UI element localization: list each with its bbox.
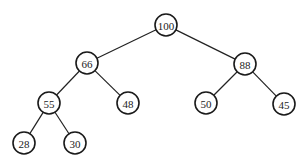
- edge-66-55: [57, 71, 80, 95]
- nodes-layer: 1006688554850452830: [13, 14, 295, 154]
- tree-node-28: 28: [13, 132, 35, 154]
- tree-node-45: 45: [273, 93, 295, 115]
- tree-node-50: 50: [195, 92, 217, 114]
- node-label: 66: [82, 58, 94, 70]
- binary-tree-diagram: 1006688554850452830: [0, 0, 308, 166]
- edge-100-88: [176, 30, 235, 59]
- node-label: 28: [19, 138, 31, 150]
- tree-node-88: 88: [234, 53, 256, 75]
- node-label: 88: [240, 59, 252, 71]
- tree-node-100: 100: [155, 14, 177, 36]
- edges-layer: [30, 30, 276, 134]
- edge-100-66: [97, 30, 156, 58]
- node-label: 100: [158, 20, 175, 32]
- edge-88-50: [214, 72, 237, 95]
- node-label: 55: [44, 98, 56, 110]
- tree-node-55: 55: [38, 92, 60, 114]
- edge-88-45: [253, 72, 277, 96]
- node-label: 45: [279, 99, 291, 111]
- node-label: 48: [123, 98, 135, 110]
- tree-node-30: 30: [64, 132, 86, 154]
- edge-66-48: [95, 71, 120, 96]
- edge-55-28: [30, 112, 43, 133]
- node-label: 30: [70, 138, 82, 150]
- node-label: 50: [201, 98, 213, 110]
- tree-node-48: 48: [117, 92, 139, 114]
- tree-node-66: 66: [76, 52, 98, 74]
- edge-55-30: [55, 112, 69, 134]
